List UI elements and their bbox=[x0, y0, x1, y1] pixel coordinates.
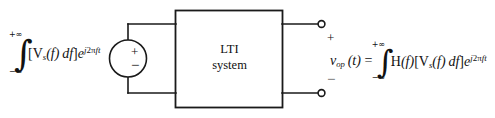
output-terminal-positive bbox=[318, 21, 325, 28]
output-h-of-f: (f) bbox=[401, 54, 414, 69]
output-exponent: j2πft bbox=[470, 53, 487, 63]
output-integrand: H(f)[Vs(f) df]ej2πft bbox=[391, 54, 487, 70]
output-integral-lower-limit: −∞ bbox=[372, 74, 385, 82]
input-differential: df bbox=[62, 46, 73, 61]
output-lhs: vop (t) = bbox=[330, 54, 376, 69]
input-exp-t: t bbox=[98, 45, 101, 55]
input-exponent: j2πft bbox=[84, 45, 101, 55]
lti-system-figure: LTI system + − + − +∞ ∫ −∞ [Vs(f) df]ej2… bbox=[0, 0, 495, 118]
output-v-symbol2: V bbox=[419, 54, 429, 69]
source-minus-sign: − bbox=[131, 58, 139, 73]
output-exp-t: t bbox=[484, 53, 487, 63]
input-v-symbol: V bbox=[33, 46, 43, 61]
input-integrand: [Vs(f) df]ej2πft bbox=[28, 46, 101, 62]
lti-system-label-line1: LTI bbox=[220, 42, 238, 56]
output-of-t: (t) bbox=[348, 53, 361, 68]
output-differential: df bbox=[448, 54, 459, 69]
output-integral-symbol: +∞ ∫ −∞ bbox=[376, 42, 391, 82]
output-equals-sign: = bbox=[364, 53, 372, 68]
output-of-f: (f) bbox=[432, 54, 445, 69]
input-of-f: (f) bbox=[46, 46, 59, 61]
output-terminal-negative bbox=[318, 90, 325, 97]
output-v-subscript: op bbox=[336, 60, 345, 70]
input-integral-lower-limit: −∞ bbox=[9, 68, 22, 76]
output-signal-expression: vop (t) = +∞ ∫ −∞ H(f)[Vs(f) df]ej2πft bbox=[330, 42, 487, 82]
input-signal-expression: +∞ ∫ −∞ [Vs(f) df]ej2πft bbox=[13, 32, 101, 76]
lti-system-label: LTI system bbox=[176, 42, 283, 73]
voltage-source-symbol bbox=[110, 40, 147, 77]
lti-system-label-line2: system bbox=[176, 58, 283, 74]
input-integral-symbol: +∞ ∫ −∞ bbox=[13, 32, 28, 76]
